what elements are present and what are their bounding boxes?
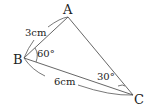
vertex-label-c: C xyxy=(134,92,144,107)
side-ac xyxy=(68,17,133,95)
angle-label-c: 30° xyxy=(97,71,115,82)
arc-bc-left xyxy=(24,58,45,76)
side-label-ab: 3cm xyxy=(25,27,47,38)
side-label-bc: 6cm xyxy=(54,76,76,87)
angle-arc-c xyxy=(118,85,125,86)
arc-bc-right xyxy=(78,85,133,95)
triangle-diagram: A B C 3cm 6cm 60° 30° xyxy=(0,0,153,111)
angle-label-b: 60° xyxy=(37,48,55,59)
arc-ab-lower xyxy=(24,40,34,58)
vertex-label-a: A xyxy=(62,2,73,17)
vertex-label-b: B xyxy=(13,52,23,67)
side-bc xyxy=(24,58,133,95)
arc-ab-upper xyxy=(48,17,68,27)
